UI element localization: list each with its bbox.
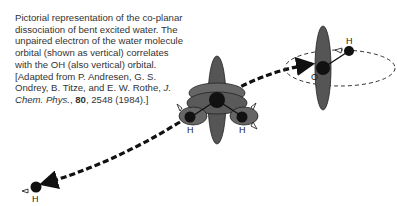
trajectory-to-free-h xyxy=(42,122,180,184)
oh-h-label: H xyxy=(346,36,353,46)
oh-plane-ellipse xyxy=(285,50,395,86)
free-h-label: H xyxy=(32,194,39,204)
water-oxygen-atom xyxy=(209,92,225,108)
water-h-right-label: H xyxy=(239,125,246,135)
free-hydrogen-atom xyxy=(31,182,42,193)
oh-hydrogen-atom xyxy=(344,46,354,56)
oh-o-label: O xyxy=(311,72,318,82)
oh-oxygen-atom xyxy=(316,61,330,75)
dissociation-diagram: H O H H H xyxy=(0,0,397,206)
water-hydrogen-right xyxy=(237,112,248,123)
water-hydrogen-left xyxy=(185,112,196,123)
water-h-left-label: H xyxy=(187,125,194,135)
